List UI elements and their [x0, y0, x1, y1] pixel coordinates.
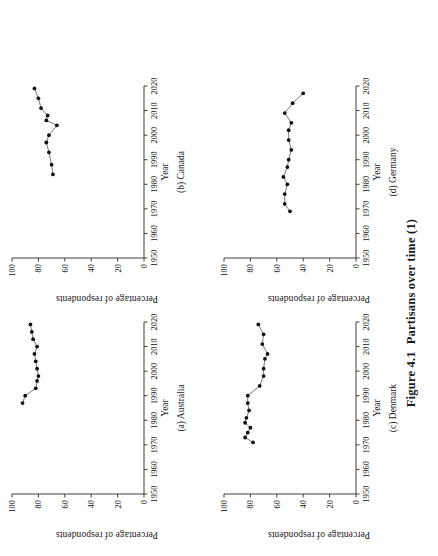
x-axis-title-germany: Year	[372, 86, 382, 258]
svg-text:1950: 1950	[150, 486, 159, 503]
svg-text:100: 100	[220, 264, 229, 277]
y-axis-title-canada: Percentage of respondents	[32, 294, 182, 304]
svg-text:1990: 1990	[362, 151, 371, 168]
y-axis-title-australia: Percentage of respondents	[32, 530, 182, 540]
svg-text:1960: 1960	[362, 461, 371, 478]
svg-text:2020: 2020	[362, 314, 371, 331]
svg-text:0: 0	[140, 500, 149, 504]
panel-denmark: 0204060801001950196019701980199020002010…	[220, 314, 424, 546]
panel-grid: 0204060801001950196019701980199020002010…	[6, 78, 434, 548]
chart-denmark: 0204060801001950196019701980199020002010…	[224, 322, 356, 494]
svg-text:2020: 2020	[150, 314, 159, 331]
panel-caption-germany: (d) Germany	[388, 86, 398, 258]
svg-text:20: 20	[326, 500, 335, 508]
svg-text:1970: 1970	[362, 436, 371, 453]
svg-text:100: 100	[220, 500, 229, 513]
svg-text:1950: 1950	[362, 486, 371, 503]
svg-text:1980: 1980	[150, 176, 159, 193]
svg-text:40: 40	[87, 500, 96, 508]
figure-caption: Figure 4.1Partisans over time (1)	[404, 78, 419, 548]
svg-text:80: 80	[34, 264, 43, 272]
chart-canada: 0204060801001950196019701980199020002010…	[12, 86, 144, 258]
svg-text:60: 60	[61, 264, 70, 272]
panel-caption-denmark: (c) Denmark	[388, 322, 398, 494]
svg-text:1980: 1980	[362, 412, 371, 429]
y-axis-title-denmark: Percentage of respondents	[244, 530, 394, 540]
y-axis-title-germany: Percentage of respondents	[244, 294, 394, 304]
svg-text:0: 0	[140, 264, 149, 268]
figure-page: 0204060801001950196019701980199020002010…	[0, 0, 438, 556]
panel-caption-canada: (b) Canada	[176, 86, 186, 258]
svg-text:100: 100	[8, 500, 17, 513]
svg-text:20: 20	[326, 264, 335, 272]
svg-text:80: 80	[34, 500, 43, 508]
svg-text:2020: 2020	[362, 78, 371, 95]
svg-text:2000: 2000	[362, 363, 371, 380]
x-axis-title-canada: Year	[160, 86, 170, 258]
svg-text:40: 40	[299, 264, 308, 272]
panel-australia: 0204060801001950196019701980199020002010…	[8, 314, 212, 546]
svg-text:2010: 2010	[362, 338, 371, 355]
svg-text:80: 80	[246, 500, 255, 508]
chart-australia: 0204060801001950196019701980199020002010…	[12, 322, 144, 494]
rotated-figure-canvas: 0204060801001950196019701980199020002010…	[0, 0, 438, 556]
svg-text:1960: 1960	[150, 461, 159, 478]
panel-canada: 0204060801001950196019701980199020002010…	[8, 78, 212, 310]
panel-caption-australia: (a) Australia	[176, 322, 186, 494]
svg-text:0: 0	[352, 500, 361, 504]
chart-germany: 0204060801001950196019701980199020002010…	[224, 86, 356, 258]
svg-text:1960: 1960	[362, 225, 371, 242]
plot-area-denmark: 0204060801001950196019701980199020002010…	[224, 322, 356, 494]
svg-text:0: 0	[352, 264, 361, 268]
svg-text:1980: 1980	[362, 176, 371, 193]
x-axis-title-australia: Year	[160, 322, 170, 494]
svg-text:100: 100	[8, 264, 17, 277]
svg-text:2000: 2000	[150, 363, 159, 380]
svg-text:40: 40	[87, 264, 96, 272]
plot-area-canada: 0204060801001950196019701980199020002010…	[12, 86, 144, 258]
plot-area-germany: 0204060801001950196019701980199020002010…	[224, 86, 356, 258]
svg-text:1990: 1990	[150, 387, 159, 404]
svg-text:2010: 2010	[150, 102, 159, 119]
svg-text:1990: 1990	[362, 387, 371, 404]
x-axis-title-denmark: Year	[372, 322, 382, 494]
svg-text:60: 60	[61, 500, 70, 508]
svg-text:2020: 2020	[150, 78, 159, 95]
svg-text:1970: 1970	[150, 436, 159, 453]
svg-text:1950: 1950	[150, 250, 159, 267]
figure-number: Figure 4.1	[404, 351, 418, 407]
plot-area-australia: 0204060801001950196019701980199020002010…	[12, 322, 144, 494]
panel-germany: 0204060801001950196019701980199020002010…	[220, 78, 424, 310]
svg-text:20: 20	[114, 264, 123, 272]
svg-text:1950: 1950	[362, 250, 371, 267]
figure-caption-text: Partisans over time (1)	[404, 219, 418, 345]
svg-text:2000: 2000	[362, 127, 371, 144]
svg-text:1970: 1970	[150, 200, 159, 217]
svg-text:60: 60	[273, 500, 282, 508]
svg-text:1990: 1990	[150, 151, 159, 168]
svg-text:1960: 1960	[150, 225, 159, 242]
svg-text:40: 40	[299, 500, 308, 508]
svg-text:1970: 1970	[362, 200, 371, 217]
svg-text:60: 60	[273, 264, 282, 272]
svg-text:80: 80	[246, 264, 255, 272]
svg-text:2010: 2010	[150, 338, 159, 355]
svg-text:2010: 2010	[362, 102, 371, 119]
svg-text:1980: 1980	[150, 412, 159, 429]
svg-text:2000: 2000	[150, 127, 159, 144]
svg-text:20: 20	[114, 500, 123, 508]
